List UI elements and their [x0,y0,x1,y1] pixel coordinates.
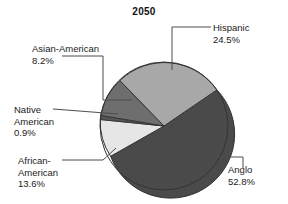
label-native-american-value: 0.9% [14,127,54,139]
label-anglo-value: 52.8% [228,176,255,188]
label-native-american: Native American 0.9% [14,104,54,139]
label-asian-american-value: 8.2% [32,55,99,67]
label-anglo: Anglo 52.8% [228,164,255,187]
label-hispanic-name: Hispanic [213,22,249,34]
label-asian-american: Asian-American 8.2% [32,43,99,66]
label-native-american-name-line2: American [14,116,54,128]
label-hispanic-value: 24.5% [213,34,249,46]
label-native-american-name-line1: Native [14,104,54,116]
label-african-american-name-line1: African- [18,155,58,167]
label-asian-american-name: Asian-American [32,43,99,55]
label-african-american-name-line2: American [18,167,58,179]
label-hispanic: Hispanic 24.5% [213,22,249,45]
label-african-american-value: 13.6% [18,178,58,190]
label-anglo-name: Anglo [228,164,255,176]
pie-chart-screenshot: 2050 Hispanic 24.5% Asian-American 8.2% [0,0,288,204]
label-african-american: African- American 13.6% [18,155,58,190]
